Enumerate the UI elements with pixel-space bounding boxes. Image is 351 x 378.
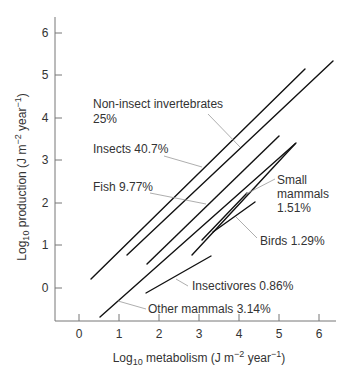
label-non-insect-1: Non-insect invertebrates <box>93 97 223 111</box>
y-tick-labels: 6 5 4 3 2 1 0 <box>42 26 49 295</box>
leader-other-mammals <box>118 301 146 309</box>
y-tick-2: 2 <box>42 196 49 210</box>
label-small-mammals-2: mammals <box>277 187 329 201</box>
label-other-mammals: Other mammals 3.14% <box>148 302 271 316</box>
y-axis-label: Log10 production (J m−2 year−1) <box>13 93 31 260</box>
y-tick-6: 6 <box>42 26 49 40</box>
chart: 6 5 4 3 2 1 0 0 1 2 3 4 5 6 Log10 metabo… <box>0 0 351 378</box>
label-insects: Insects 40.7% <box>93 142 169 156</box>
label-fish: Fish 9.77% <box>93 180 153 194</box>
x-tick-2: 2 <box>156 327 163 341</box>
leader-birds <box>236 217 257 238</box>
leader-insectivores <box>176 279 188 286</box>
x-axis-label: Log10 metabolism (J m−2 year−1) <box>113 349 286 367</box>
line-small-mammals <box>202 193 247 240</box>
x-tick-4: 4 <box>236 327 243 341</box>
x-tick-0: 0 <box>76 327 83 341</box>
label-non-insect-2: 25% <box>93 112 117 126</box>
x-tick-3: 3 <box>196 327 203 341</box>
label-small-mammals-3: 1.51% <box>277 201 311 215</box>
leader-insects <box>164 156 202 167</box>
y-tick-1: 1 <box>42 238 49 252</box>
label-small-mammals-1: Small <box>277 173 307 187</box>
x-tick-1: 1 <box>116 327 123 341</box>
x-tick-5: 5 <box>276 327 283 341</box>
y-tick-3: 3 <box>42 153 49 167</box>
leader-fish <box>150 193 206 204</box>
leader-non-insect <box>208 114 240 147</box>
y-tick-5: 5 <box>42 68 49 82</box>
y-tick-4: 4 <box>42 111 49 125</box>
label-birds: Birds 1.29% <box>260 234 325 248</box>
y-tick-0: 0 <box>42 281 49 295</box>
label-insectivores: Insectivores 0.86% <box>192 279 294 293</box>
x-tick-6: 6 <box>316 327 323 341</box>
chart-svg: 6 5 4 3 2 1 0 0 1 2 3 4 5 6 Log10 metabo… <box>0 0 351 378</box>
y-axis <box>55 17 62 321</box>
line-non-insect-invertebrates <box>127 61 333 255</box>
x-tick-labels: 0 1 2 3 4 5 6 <box>76 327 323 341</box>
series-labels: Non-insect invertebrates 25% Insects 40.… <box>93 97 329 316</box>
